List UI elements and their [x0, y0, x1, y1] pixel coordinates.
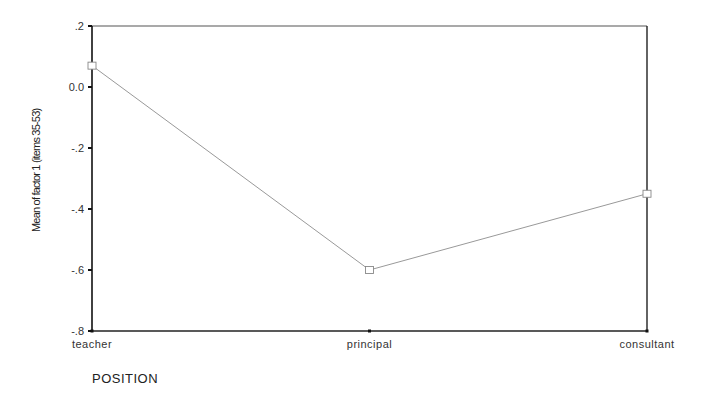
data-point-marker [643, 190, 651, 197]
y-tick-label: .2 [75, 20, 84, 32]
x-tick [646, 330, 649, 333]
y-tick-label: -.6 [71, 264, 84, 276]
x-axis-ticks: teacherprincipalconsultant [72, 330, 675, 351]
y-tick-label: -.4 [71, 203, 84, 215]
line-chart: .20.0-.2-.4-.6-.8 teacherprincipalconsul… [0, 0, 710, 409]
x-tick-label: principal [347, 338, 392, 350]
y-tick-label: -.8 [71, 325, 84, 337]
plot-frame [92, 26, 647, 331]
series-line [92, 66, 647, 270]
data-point-marker [366, 267, 374, 274]
y-axis-label: Mean of factor 1 (items 35-53) [30, 109, 42, 232]
x-tick-label: consultant [619, 338, 674, 350]
y-tick-label: 0.0 [69, 81, 84, 93]
data-series [88, 62, 651, 273]
x-tick-label: teacher [72, 338, 112, 350]
x-axis-label: POSITION [92, 371, 158, 386]
data-point-marker [88, 62, 96, 69]
x-tick [368, 330, 371, 333]
y-tick-label: -.2 [71, 142, 84, 154]
x-tick [91, 330, 94, 333]
